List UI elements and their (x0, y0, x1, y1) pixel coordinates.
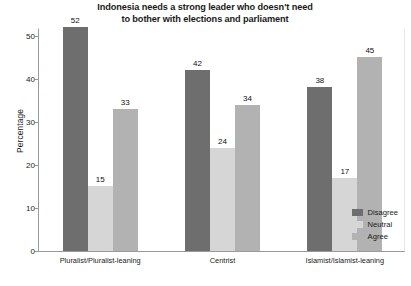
bar-disagree[interactable]: 42 (185, 70, 210, 251)
bar-chart: Indonesia needs a strong leader who does… (0, 0, 411, 286)
bar-value-label: 52 (71, 16, 80, 25)
bars-layer: 521533Pluralist/Pluralist-leaning422434C… (39, 29, 404, 251)
legend-label: Neutral (368, 220, 392, 229)
bar-group: 521533Pluralist/Pluralist-leaning (63, 29, 138, 251)
bar-value-label: 24 (218, 137, 227, 146)
x-axis-category-label: Islamist/Islamist-leaning (306, 256, 384, 265)
y-tick-label: 30 (26, 117, 35, 126)
y-axis-title: Percentage (15, 86, 25, 176)
bar-value-label: 15 (96, 175, 105, 184)
bar-value-label: 34 (243, 94, 252, 103)
bar-neutral[interactable]: 24 (210, 148, 235, 251)
legend-swatch-icon (352, 233, 363, 240)
y-tick-label: 20 (26, 160, 35, 169)
chart-legend: DisagreeNeutralAgree (352, 208, 398, 241)
y-tick-mark (35, 251, 39, 252)
chart-title: Indonesia needs a strong leader who does… (40, 2, 370, 25)
chart-title-line-1: Indonesia needs a strong leader who does… (97, 2, 312, 12)
bar-value-label: 45 (365, 46, 374, 55)
legend-swatch-icon (352, 221, 363, 228)
legend-item-neutral[interactable]: Neutral (352, 220, 398, 229)
bar-agree[interactable]: 33 (113, 109, 138, 251)
plot-area: 01020304050 521533Pluralist/Pluralist-le… (38, 28, 405, 252)
bar-value-label: 42 (193, 59, 202, 68)
legend-label: Agree (368, 232, 388, 241)
bar-group: 422434Centrist (185, 29, 260, 251)
legend-label: Disagree (368, 208, 398, 217)
bar-disagree[interactable]: 38 (307, 87, 332, 251)
legend-item-disagree[interactable]: Disagree (352, 208, 398, 217)
x-axis-category-label: Centrist (210, 256, 235, 265)
bar-agree[interactable]: 34 (235, 105, 260, 251)
bar-neutral[interactable]: 15 (88, 186, 113, 251)
legend-item-agree[interactable]: Agree (352, 232, 398, 241)
bar-disagree[interactable]: 52 (63, 27, 88, 251)
y-tick-label: 50 (26, 31, 35, 40)
bar-value-label: 17 (340, 167, 349, 176)
chart-title-line-2: to bother with elections and parliament (40, 14, 370, 26)
x-axis-category-label: Pluralist/Pluralist-leaning (60, 256, 141, 265)
y-tick-label: 10 (26, 203, 35, 212)
legend-swatch-icon (352, 209, 363, 216)
bar-value-label: 38 (315, 76, 324, 85)
bar-value-label: 33 (121, 98, 130, 107)
y-tick-label: 0 (31, 247, 35, 256)
y-tick-label: 40 (26, 74, 35, 83)
